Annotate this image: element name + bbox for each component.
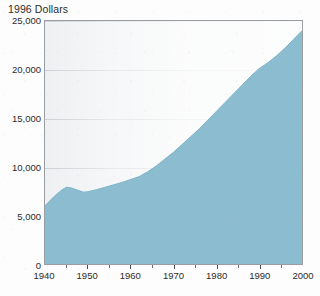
y-axis-tick-label: 5,000 bbox=[17, 211, 41, 222]
y-axis-tick-label: 15,000 bbox=[12, 113, 41, 124]
y-axis-tick-label: 0 bbox=[36, 260, 41, 271]
x-axis-tick-mark bbox=[130, 265, 131, 269]
x-axis-tick-label: 1970 bbox=[163, 270, 184, 281]
x-axis-tick-label: 1990 bbox=[249, 270, 270, 281]
x-axis-tick-label: 2000 bbox=[292, 270, 313, 281]
plot-area bbox=[44, 20, 303, 265]
x-axis-minor-tick-mark bbox=[195, 265, 196, 268]
x-axis-minor-tick-mark bbox=[281, 265, 282, 268]
x-axis-minor-tick-mark bbox=[238, 265, 239, 268]
x-axis-minor-tick-mark bbox=[66, 265, 67, 268]
x-axis-minor-tick-mark bbox=[152, 265, 153, 268]
x-axis-tick-label: 1960 bbox=[120, 270, 141, 281]
x-axis-tick-mark bbox=[174, 265, 175, 269]
chart-figure: 1996 Dollars 05,00010,00015,00020,00025,… bbox=[0, 0, 320, 296]
x-axis-tick-mark bbox=[260, 265, 261, 269]
x-axis-minor-tick-mark bbox=[109, 265, 110, 268]
x-axis-tick-mark bbox=[87, 265, 88, 269]
x-axis-tick-label: 1950 bbox=[77, 270, 98, 281]
y-axis-tick-label: 20,000 bbox=[12, 64, 41, 75]
y-axis-labels: 05,00010,00015,00020,00025,000 bbox=[0, 0, 41, 296]
area-series bbox=[45, 21, 302, 264]
x-axis-tick-mark bbox=[217, 265, 218, 269]
x-axis-tick-label: 1940 bbox=[33, 270, 54, 281]
y-axis-tick-label: 25,000 bbox=[12, 15, 41, 26]
y-axis-tick-label: 10,000 bbox=[12, 162, 41, 173]
x-axis-tick-label: 1980 bbox=[206, 270, 227, 281]
